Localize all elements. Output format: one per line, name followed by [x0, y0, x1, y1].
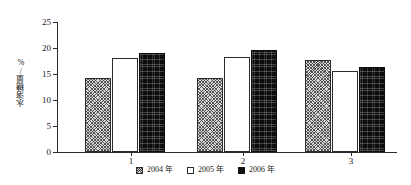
- y-tick-label: 10: [31, 95, 51, 105]
- black-swatch-icon: [238, 167, 245, 174]
- legend-label-2004: 2004 年: [147, 165, 173, 175]
- bar-2005-group3[interactable]: [332, 71, 358, 152]
- white-swatch-icon: [187, 167, 194, 174]
- legend-label-2005: 2005 年: [198, 165, 224, 175]
- plot-area: 25 20 15 10 5 0: [57, 22, 397, 152]
- y-tick-label: 0: [31, 147, 51, 157]
- y-axis-title: 水溶糖量/%: [14, 46, 28, 118]
- legend-item-2006[interactable]: 2006 年: [238, 165, 275, 175]
- y-tick-label: 5: [31, 121, 51, 131]
- bar-group-3: [305, 22, 397, 152]
- bar-2005-group1[interactable]: [112, 58, 138, 152]
- y-tick-label: 20: [31, 43, 51, 53]
- crosshatch-swatch-icon: [136, 167, 143, 174]
- legend-item-2005[interactable]: 2005 年: [187, 165, 224, 175]
- y-tick-label: 15: [31, 69, 51, 79]
- bar-groups: [57, 22, 397, 152]
- bar-2004-group1[interactable]: [85, 78, 111, 152]
- bar-chart-figure: 水溶糖量/% 25 20 15 10 5 0: [0, 0, 411, 185]
- chart-legend: 2004 年 2005 年 2006 年: [0, 165, 411, 175]
- bar-2006-group3[interactable]: [359, 67, 385, 152]
- bar-2006-group1[interactable]: [139, 53, 165, 152]
- bar-2005-group2[interactable]: [224, 57, 250, 152]
- bar-2006-group2[interactable]: [251, 50, 277, 152]
- bar-2004-group2[interactable]: [197, 78, 223, 152]
- y-tick-mark: [53, 152, 57, 153]
- bar-2004-group3[interactable]: [305, 60, 331, 152]
- x-axis-line: [57, 152, 397, 153]
- legend-label-2006: 2006 年: [249, 165, 275, 175]
- bar-group-1: [85, 22, 177, 152]
- legend-item-2004[interactable]: 2004 年: [136, 165, 173, 175]
- y-tick-label: 25: [31, 17, 51, 27]
- bar-group-2: [197, 22, 289, 152]
